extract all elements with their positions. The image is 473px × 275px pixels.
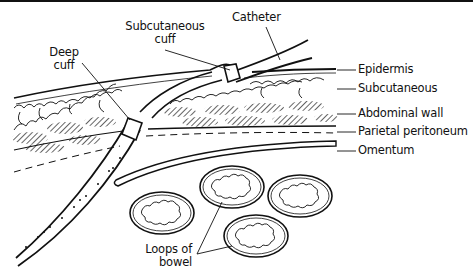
omentum-layer: [114, 141, 336, 186]
bowel-loop-1: [130, 192, 194, 234]
label-epidermis: Epidermis: [358, 63, 413, 76]
label-loops-of-bowel: Loops of bowel: [140, 243, 192, 269]
bowel-loop-4: [224, 215, 288, 257]
diagram-canvas: Catheter Subcutaneous cuff Deep cuff Epi…: [0, 0, 473, 275]
label-catheter: Catheter: [232, 11, 281, 24]
bowel-loop-3: [268, 175, 332, 217]
parietal-peritoneum-layer: [14, 132, 336, 172]
label-omentum: Omentum: [358, 144, 414, 157]
deep-cuff: [122, 118, 142, 140]
bowel-loop-2: [200, 166, 264, 208]
label-subcutaneous-cuff-line2: cuff: [124, 33, 206, 46]
label-subcutaneous-cuff: Subcutaneous cuff: [124, 20, 206, 46]
label-subcutaneous: Subcutaneous: [358, 82, 437, 95]
label-bowel-line2: bowel: [140, 256, 192, 269]
label-parietal-peritoneum: Parietal peritoneum: [358, 125, 468, 138]
label-deep-cuff: Deep cuff: [46, 46, 82, 72]
leader-lines: [82, 27, 356, 254]
label-deep-cuff-line2: cuff: [46, 59, 82, 72]
label-abdominal-wall: Abdominal wall: [358, 107, 443, 120]
subcutaneous-cuff: [224, 64, 240, 82]
